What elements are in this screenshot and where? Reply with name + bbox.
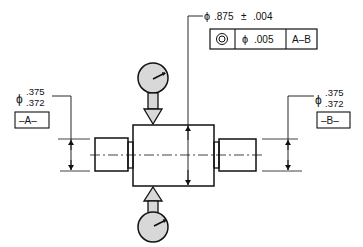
feature-control-frame: ϕ .005 A–B [210,29,317,49]
dial-indicator-top-icon [138,63,168,124]
tolerance-diameter-symbol: ϕ [242,33,248,45]
right-diameter-symbol: ϕ [315,93,322,107]
main-tolerance-value: .004 [253,11,273,22]
right-journal-callout: ϕ .375 .372 –B– [315,87,350,128]
concentricity-icon [217,34,228,45]
plus-minus-symbol: ± [241,11,247,22]
technical-drawing: ϕ .875 ± .004 ϕ .005 A–B ϕ .375 .372 –A–… [0,0,363,247]
datum-reference: A–B [292,34,311,45]
tolerance-value: .005 [254,34,274,45]
right-dimension [262,96,314,171]
main-diameter-dimension [188,16,203,185]
left-lower-limit: .372 [26,97,45,108]
datum-b-label: –B– [321,115,339,126]
main-dimension-text: ϕ .875 ± .004 [204,10,273,22]
main-diameter-value: .875 [214,11,234,22]
right-upper-limit: .375 [325,87,344,98]
right-lower-limit: .372 [325,98,344,109]
left-journal-callout: ϕ .375 .372 –A– [15,86,49,128]
left-journal [95,138,133,171]
dial-indicator-bottom-icon [138,187,168,242]
diameter-symbol: ϕ [204,10,210,22]
main-body [133,125,214,186]
datum-a-label: –A– [19,115,37,126]
left-upper-limit: .375 [26,86,45,97]
left-diameter-symbol: ϕ [16,92,23,106]
left-dimension [52,96,90,171]
